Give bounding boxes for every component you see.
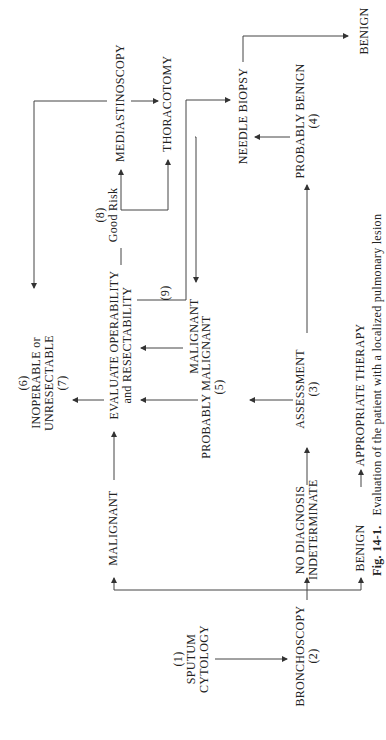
node-benign-biopsy: BENIGN — [358, 2, 371, 60]
node-number: (4) — [307, 60, 320, 182]
node-text: THORACOTOMY — [161, 56, 174, 152]
node-text: MALIGNANT — [188, 284, 201, 388]
node-text: BENIGN — [358, 2, 371, 60]
node-number: (2) — [307, 600, 320, 712]
node-thoracotomy: THORACOTOMY — [161, 56, 174, 152]
node-assessment: ASSESSMENT (3) — [294, 332, 320, 446]
caption-label: Fig. 14-1. — [370, 525, 384, 576]
node-evaluate-operability: EVALUATE OPERABILITY and RESECTABILITY — [108, 260, 134, 430]
node-number: (7) — [56, 290, 69, 476]
node-needle-biopsy: NEEDLE BIOPSY — [237, 60, 250, 172]
node-number: (3) — [307, 332, 320, 446]
figure-caption: Fig. 14-1. Evaluation of the patient wit… — [371, 156, 384, 576]
node-text: INDETERMINATE — [307, 480, 320, 580]
node-text: Good Risk — [107, 184, 120, 246]
node-text: MEDIASTINOSCOPY — [114, 43, 127, 163]
flowchart-figure: (1) SPUTUM CYTOLOGY BRONCHOSCOPY (2) MAL… — [0, 0, 386, 740]
node-appropriate-therapy: APPROPRIATE THERAPY — [354, 320, 367, 470]
node-text: APPROPRIATE THERAPY — [354, 320, 367, 470]
node-mediastinoscopy: MEDIASTINOSCOPY — [114, 43, 127, 163]
node-no-diagnosis: NO DIAGNOSIS INDETERMINATE — [294, 480, 320, 580]
node-number: (5) — [213, 312, 226, 462]
node-malignant-biopsy: MALIGNANT — [188, 284, 201, 388]
node-text: CYTOLOGY — [198, 614, 211, 704]
node-text: and RESECTABILITY — [121, 260, 134, 430]
node-sputum-cytology: (1) SPUTUM CYTOLOGY — [172, 614, 211, 704]
node-text: NEEDLE BIOPSY — [237, 60, 250, 172]
node-text: MALIGNANT — [107, 480, 120, 576]
caption-text: Evaluation of the patient with a localiz… — [370, 214, 384, 516]
node-malignant-bronchoscopy: MALIGNANT — [107, 480, 120, 576]
marker-9: (9) — [159, 280, 172, 306]
node-text: BENIGN — [354, 518, 367, 578]
node-bronchoscopy: BRONCHOSCOPY (2) — [294, 600, 320, 712]
node-inoperable: (6) INOPERABLE or UNRESECTABLE (7) — [17, 290, 69, 476]
node-probably-benign: PROBABLY BENIGN (4) — [294, 60, 320, 182]
node-probably-malignant: PROBABLY MALIGNANT (5) — [200, 312, 226, 462]
node-good-risk: (8) Good Risk — [94, 184, 120, 246]
node-number: (9) — [159, 280, 172, 306]
node-benign-bronchoscopy: BENIGN — [354, 518, 367, 578]
